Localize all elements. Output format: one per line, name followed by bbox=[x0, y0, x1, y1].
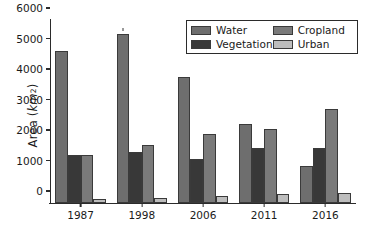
y-axis-tick-label: 4000 bbox=[16, 63, 43, 75]
legend-label-water: Water bbox=[216, 24, 247, 36]
y-axis-tick-mark bbox=[46, 160, 50, 161]
x-axis-tick-label: 2016 bbox=[312, 209, 339, 221]
bar-water-2006 bbox=[178, 77, 191, 203]
y-axis-tick-label: 1000 bbox=[16, 155, 43, 167]
bar-vegetation-2016 bbox=[313, 148, 326, 203]
legend-label-urban: Urban bbox=[298, 38, 330, 50]
y-axis-tick-mark bbox=[46, 129, 50, 130]
bar-cropland-2016 bbox=[325, 109, 338, 203]
bar-urban-2011 bbox=[277, 194, 290, 203]
x-axis-tick-label: 1998 bbox=[128, 209, 155, 221]
y-axis-tick-mark bbox=[46, 38, 50, 39]
y-axis-tick-mark bbox=[46, 99, 50, 100]
legend-swatch-water bbox=[191, 26, 211, 35]
y-axis-tick-label: 2000 bbox=[16, 124, 43, 136]
legend-label-cropland: Cropland bbox=[298, 24, 345, 36]
bar-urban-1998 bbox=[154, 198, 167, 203]
legend-entry-water[interactable]: Water bbox=[191, 24, 273, 36]
legend-entry-vegetation[interactable]: Vegetation bbox=[191, 38, 273, 50]
x-axis-tick-label: 2006 bbox=[190, 209, 217, 221]
bar-vegetation-1987 bbox=[68, 155, 81, 203]
y-axis-tick: 1000 bbox=[16, 155, 50, 167]
x-axis-tick-mark bbox=[141, 203, 142, 207]
legend-swatch-cropland bbox=[273, 26, 293, 35]
bar-urban-2006 bbox=[216, 196, 229, 203]
legend-entry-cropland[interactable]: Cropland bbox=[273, 24, 353, 36]
x-axis-tick-label: 1987 bbox=[67, 209, 94, 221]
y-axis-tick: 5000 bbox=[16, 33, 50, 45]
bar-urban-2016 bbox=[338, 193, 351, 203]
legend-entry-urban[interactable]: Urban bbox=[273, 38, 353, 50]
y-axis-tick: 2000 bbox=[16, 124, 50, 136]
bar-water-1998 bbox=[117, 34, 130, 203]
x-axis-tick: 1987 bbox=[67, 203, 94, 221]
y-axis-tick-mark bbox=[46, 68, 50, 69]
x-axis-tick-mark bbox=[264, 203, 265, 207]
y-axis-tick-label: 6000 bbox=[16, 2, 43, 14]
plot-artifact-mark bbox=[122, 28, 124, 31]
bar-cropland-1998 bbox=[142, 145, 155, 203]
bar-water-2016 bbox=[300, 166, 313, 203]
bar-cropland-1987 bbox=[81, 155, 94, 203]
y-axis-tick: 4000 bbox=[16, 63, 50, 75]
y-axis-tick-mark bbox=[46, 7, 50, 8]
y-axis-tick-mark bbox=[46, 190, 50, 191]
x-axis-tick: 2016 bbox=[312, 203, 339, 221]
bar-chart-figure: Area (km2) 0100020003000400050006000 198… bbox=[0, 0, 371, 231]
legend-swatch-vegetation bbox=[191, 40, 211, 49]
x-axis-tick-mark bbox=[202, 203, 203, 207]
y-axis-tick: 3000 bbox=[16, 94, 50, 106]
y-axis-tick: 6000 bbox=[16, 2, 50, 14]
y-axis-tick-label: 3000 bbox=[16, 94, 43, 106]
x-axis-tick-label: 2011 bbox=[251, 209, 278, 221]
chart-legend: WaterCroplandVegetationUrban bbox=[186, 20, 358, 54]
bar-cropland-2006 bbox=[203, 134, 216, 203]
legend-label-vegetation: Vegetation bbox=[216, 38, 273, 50]
y-axis-tick-label: 0 bbox=[36, 185, 43, 197]
x-axis-tick-mark bbox=[80, 203, 81, 207]
bar-water-2011 bbox=[239, 124, 252, 203]
bar-vegetation-1998 bbox=[129, 152, 142, 203]
legend-swatch-urban bbox=[273, 40, 293, 49]
bar-urban-1987 bbox=[93, 199, 106, 203]
x-axis-tick: 1998 bbox=[128, 203, 155, 221]
x-axis-tick: 2006 bbox=[190, 203, 217, 221]
bar-water-1987 bbox=[55, 51, 68, 204]
y-axis-tick: 0 bbox=[36, 185, 50, 197]
y-axis-tick-label: 5000 bbox=[16, 33, 43, 45]
bar-cropland-2011 bbox=[264, 129, 277, 203]
x-axis-tick: 2011 bbox=[251, 203, 278, 221]
bar-vegetation-2006 bbox=[190, 159, 203, 203]
x-axis-tick-mark bbox=[325, 203, 326, 207]
y-axis-label-suffix: ) bbox=[26, 84, 40, 89]
bar-vegetation-2011 bbox=[252, 148, 265, 203]
